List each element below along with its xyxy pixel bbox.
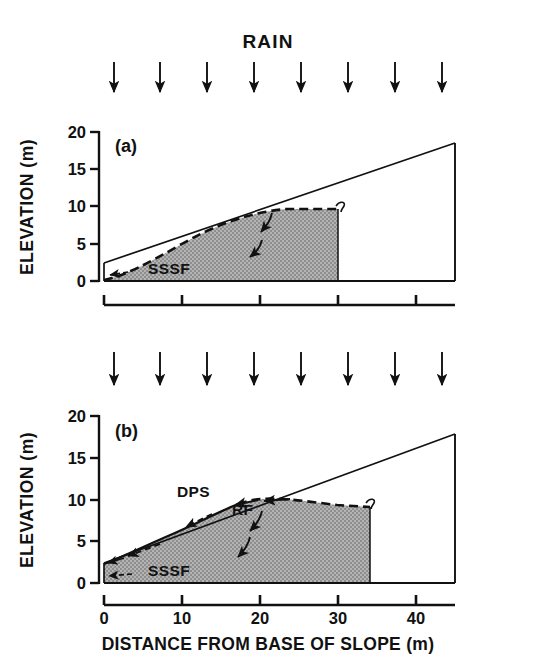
y-axis-title-b: ELEVATION (m)	[17, 432, 37, 568]
x-tick-label: 0	[99, 609, 108, 627]
sssf-label-b: SSSF	[148, 562, 190, 579]
hillslope-hydrology-figure: RAIN ELEVATION (m)	[0, 0, 537, 666]
y-tick-label: 20	[68, 123, 86, 141]
y-tick-label: 15	[68, 449, 86, 467]
y-tick-label: 0	[77, 272, 86, 290]
y-tick-label: 5	[77, 532, 86, 550]
panel-label-b: (b)	[115, 421, 138, 441]
y-tick-label: 0	[77, 574, 86, 592]
y-tick-label: 15	[68, 160, 86, 178]
panel-label-a: (a)	[115, 136, 137, 156]
x-axis-title-b: DISTANCE FROM BASE OF SLOPE (m)	[102, 634, 435, 654]
x-tick-label: 40	[407, 609, 425, 627]
sssf-label-a: SSSF	[148, 260, 190, 277]
rf-label-b: RF	[232, 501, 253, 518]
y-axis-title-a: ELEVATION (m)	[17, 139, 37, 275]
dps-label-b: DPS	[177, 483, 210, 500]
rain-title-a: RAIN	[242, 31, 293, 52]
x-tick-label: 30	[329, 609, 347, 627]
y-tick-label: 5	[77, 235, 86, 253]
y-tick-label: 10	[68, 491, 86, 509]
x-tick-label: 10	[173, 609, 191, 627]
y-tick-label: 10	[68, 197, 86, 215]
figure-canvas: RAIN ELEVATION (m)	[0, 0, 537, 666]
x-tick-label: 20	[251, 609, 269, 627]
y-tick-label: 20	[68, 407, 86, 425]
